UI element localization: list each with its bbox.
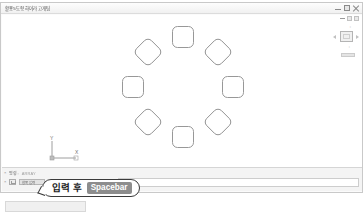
- callout-instruction-text: 입력 후: [52, 183, 82, 193]
- array-item[interactable]: [173, 127, 194, 148]
- command-text-input[interactable]: [118, 178, 359, 187]
- navigation-cluster[interactable]: ▫ ▫: [332, 16, 360, 74]
- ucs-icon: Y X: [46, 136, 82, 162]
- cad-application-window: 활용5도형 하이라고개팀 ▫: [0, 2, 363, 193]
- viewcube-arrow-right-icon[interactable]: [356, 35, 359, 39]
- array-item[interactable]: [203, 37, 233, 67]
- command-caret-icon[interactable]: ×: [4, 180, 6, 184]
- viewcube-icon[interactable]: [340, 31, 353, 42]
- window-title: 활용5도형 하이라고개팀: [5, 5, 50, 11]
- screenshot-root: 활용5도형 하이라고개팀 ▫: [0, 0, 364, 215]
- command-icon[interactable]: [9, 179, 16, 185]
- command-value-text: 항목 입력: [22, 180, 35, 185]
- viewcube-arrow-left-icon[interactable]: [333, 35, 336, 39]
- array-item[interactable]: [133, 37, 163, 67]
- array-item[interactable]: [223, 77, 244, 98]
- nav-sub-label: ▫: [349, 45, 350, 49]
- nav-label: ▫: [350, 25, 351, 29]
- nav-collapse-icon[interactable]: [340, 16, 345, 21]
- title-bar[interactable]: 활용5도형 하이라고개팀: [1, 3, 362, 14]
- array-item[interactable]: [123, 77, 144, 98]
- nav-chip-icon-1[interactable]: [347, 16, 352, 21]
- ucs-x-label: X: [75, 149, 79, 155]
- command-prompt-value: ARRAY: [22, 171, 36, 176]
- minimize-icon[interactable]: [335, 5, 341, 11]
- command-prompt-label: 명령:: [9, 170, 18, 176]
- ucs-y-label: Y: [50, 136, 54, 141]
- close-icon[interactable]: [353, 5, 359, 11]
- command-close-icon[interactable]: ×: [4, 171, 6, 175]
- window-controls: [335, 5, 359, 11]
- tutorial-callout: 입력 후 Spacebar: [42, 179, 140, 197]
- maximize-icon[interactable]: [344, 5, 350, 11]
- command-value-field[interactable]: 항목 입력: [19, 179, 45, 185]
- callout-key-badge: Spacebar: [87, 182, 132, 195]
- nav-chip-icon-2[interactable]: [354, 16, 359, 21]
- page-content-block: [5, 201, 86, 212]
- array-item[interactable]: [133, 107, 163, 137]
- nav-top-chips[interactable]: [340, 16, 359, 21]
- command-input-row[interactable]: × 항목 입력: [4, 179, 45, 185]
- polar-array-group: [123, 27, 244, 148]
- drawing-canvas[interactable]: ▫ ▫ Y X: [2, 15, 362, 168]
- command-history-row: × 명령: ARRAY: [4, 170, 36, 176]
- array-item[interactable]: [173, 27, 194, 48]
- nav-wide-button[interactable]: [341, 53, 355, 57]
- array-item[interactable]: [203, 107, 233, 137]
